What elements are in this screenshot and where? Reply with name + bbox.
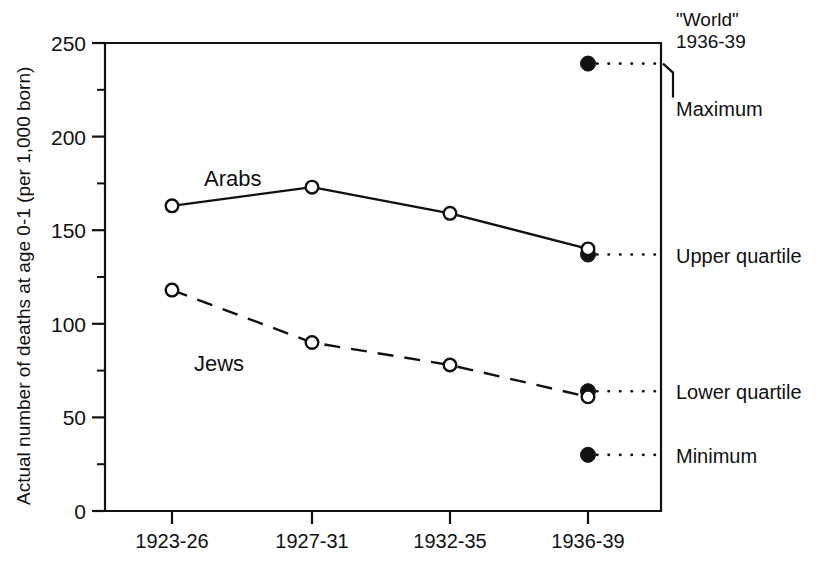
series-label-jews: Jews [194,351,244,376]
data-point-jews [582,391,595,404]
x-tick-label: 1923-26 [135,530,208,552]
series-label-arabs: Arabs [204,166,261,191]
reference-title-line2: 1936-39 [676,31,746,52]
reference-label-lower-quartile: Lower quartile [676,381,802,403]
series-line-arabs [172,187,588,249]
maximum-leader-line [663,64,673,98]
reference-annotations: "World" 1936-39 MaximumUpper quartileLow… [663,9,802,467]
data-point-jews [166,284,179,297]
data-point-arabs [166,200,179,213]
y-tick-label: 250 [51,32,86,55]
x-tick-label: 1927-31 [275,530,348,552]
y-axis: 050100150200250 [51,32,105,523]
reference-label-upper-quartile: Upper quartile [676,245,802,267]
reference-marker-minimum [581,447,596,462]
y-tick-label: 150 [51,219,86,242]
data-point-jews [306,336,319,349]
reference-marker-maximum [581,56,596,71]
data-point-arabs [582,243,595,256]
reference-label-minimum: Minimum [676,445,757,467]
y-tick-label: 100 [51,313,86,336]
y-tick-label: 200 [51,126,86,149]
plot-frame [105,43,661,511]
series-line-jews [172,290,588,397]
infant-mortality-line-chart: 050100150200250 1923-261927-311932-35193… [0,0,836,571]
y-axis-label: Actual number of deaths at age 0-1 (per … [13,67,34,505]
x-tick-label: 1936-39 [551,530,624,552]
data-point-jews [444,359,457,372]
x-tick-label: 1932-35 [413,530,486,552]
x-axis: 1923-261927-311932-351936-39 [135,511,624,552]
y-tick-label: 50 [63,406,86,429]
reference-title-line1: "World" [676,9,739,30]
data-point-arabs [444,207,457,220]
y-tick-label: 0 [74,500,86,523]
reference-label-maximum: Maximum [676,98,763,120]
chart-figure: 050100150200250 1923-261927-311932-35193… [0,0,836,571]
data-point-arabs [306,181,319,194]
